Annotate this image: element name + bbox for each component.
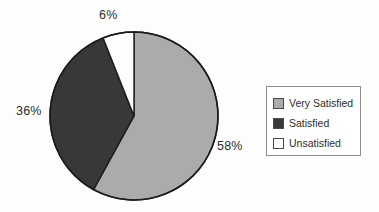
legend-label-satisfied: Satisfied [289,118,329,129]
pie-slice-group [50,32,218,200]
legend-item-satisfied: Satisfied [273,113,360,133]
legend-label-very-satisfied: Very Satisfied [289,98,353,109]
pie-plot-area: 6% 36% 58% [0,0,260,212]
legend-swatch-icon-very-satisfied [273,98,284,109]
pie-label-very-satisfied: 58% [217,140,243,153]
chart-legend: Very Satisfied Satisfied Unsatisfied [266,86,361,156]
pie-chart-figure: 6% 36% 58% Very Satisfied Satisfied Unsa… [0,0,379,212]
pie-label-unsatisfied: 6% [99,9,117,22]
legend-item-very-satisfied: Very Satisfied [273,93,360,113]
legend-item-unsatisfied: Unsatisfied [273,133,360,153]
legend-label-unsatisfied: Unsatisfied [289,138,341,149]
legend-swatch-icon-satisfied [273,118,284,129]
legend-swatch-icon-unsatisfied [273,138,284,149]
pie-label-satisfied: 36% [16,105,42,118]
